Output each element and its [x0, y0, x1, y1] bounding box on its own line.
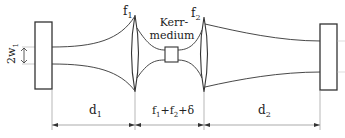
d1-label: d1	[89, 103, 102, 119]
kerr-label-line2: medium	[149, 29, 195, 42]
cavity-diagram: f1 f2 Kerr- medium 2w1 d1 f1+f2+δ d2	[0, 0, 345, 138]
lens-f2-label: f2	[191, 6, 201, 22]
lens-f1-label: f1	[123, 4, 133, 20]
d2-label: d2	[258, 103, 271, 119]
beam-lower-right	[205, 72, 321, 87]
waist-label: 2w1	[5, 43, 20, 64]
beam-kerr-f2-bottom	[178, 60, 202, 78]
lens-f2	[201, 17, 208, 92]
kerr-label-line1: Kerr-	[160, 16, 189, 29]
beam-lower-left	[52, 64, 135, 91]
right-mirror	[320, 24, 337, 90]
beam-upper-left	[52, 16, 135, 47]
kerr-medium	[165, 47, 178, 62]
beam-f1-kerr-bottom	[137, 60, 165, 78]
middle-distance-label: f1+f2+δ	[152, 104, 195, 119]
left-mirror	[35, 22, 52, 89]
beam-upper-right	[205, 24, 321, 41]
lens-f1	[132, 15, 139, 92]
